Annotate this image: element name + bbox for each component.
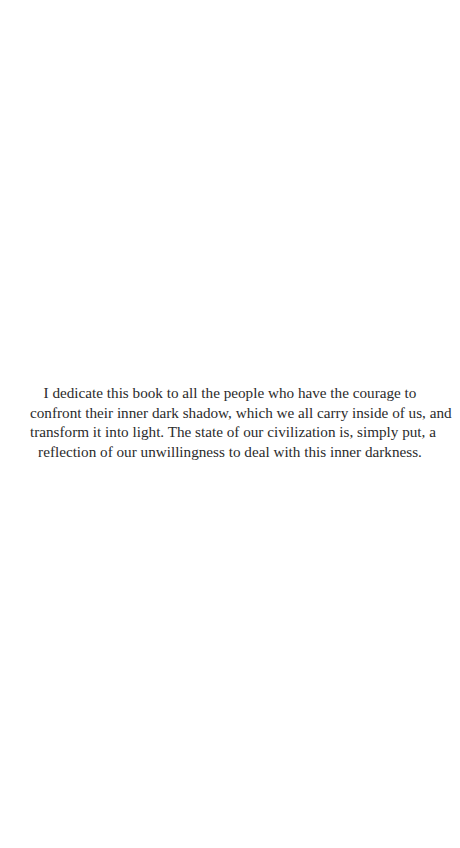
- dedication-paragraph: I dedicate this book to all the people w…: [30, 383, 430, 461]
- book-page: I dedicate this book to all the people w…: [0, 0, 460, 848]
- dedication-line: I dedicate this book to all the people w…: [30, 383, 430, 403]
- dedication-line: confront their inner dark shadow, which …: [30, 403, 430, 423]
- dedication-line: reflection of our unwillingness to deal …: [30, 442, 430, 462]
- dedication-line: transform it into light. The state of ou…: [30, 422, 430, 442]
